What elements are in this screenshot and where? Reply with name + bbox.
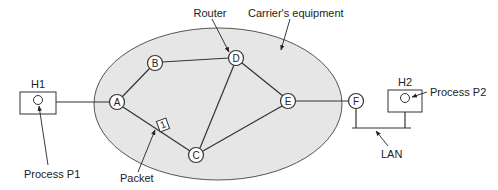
router-a: A: [110, 95, 125, 110]
p1-pointer-arrow: [39, 106, 48, 165]
router-b-label: B: [152, 58, 159, 69]
packet-label: Packet: [120, 172, 154, 184]
router-d: D: [229, 51, 244, 66]
process-p1-icon: [34, 96, 43, 105]
lan-label: LAN: [381, 148, 402, 160]
router-d-label: D: [232, 53, 239, 64]
process-p2-label: Process P2: [430, 86, 486, 98]
router-f-label: F: [353, 96, 359, 107]
process-p1-label: Process P1: [24, 168, 80, 180]
host-h1: [20, 92, 56, 114]
router-e: E: [281, 94, 296, 109]
router-f: F: [349, 94, 364, 109]
router-c: C: [189, 148, 204, 163]
router-b: B: [148, 56, 163, 71]
process-p2-icon: [401, 94, 410, 103]
carrier-label: Carrier's equipment: [248, 7, 344, 19]
router-e-label: E: [285, 96, 292, 107]
h2-label: H2: [398, 76, 412, 88]
router-c-label: C: [192, 150, 199, 161]
host-h2: [388, 90, 422, 112]
network-diagram: A B C D E F 1 H1 H2: [0, 0, 498, 190]
lan-pointer-arrow: [376, 131, 388, 146]
h1-label: H1: [31, 78, 45, 90]
router-label: Router: [193, 7, 226, 19]
router-a-label: A: [114, 97, 121, 108]
